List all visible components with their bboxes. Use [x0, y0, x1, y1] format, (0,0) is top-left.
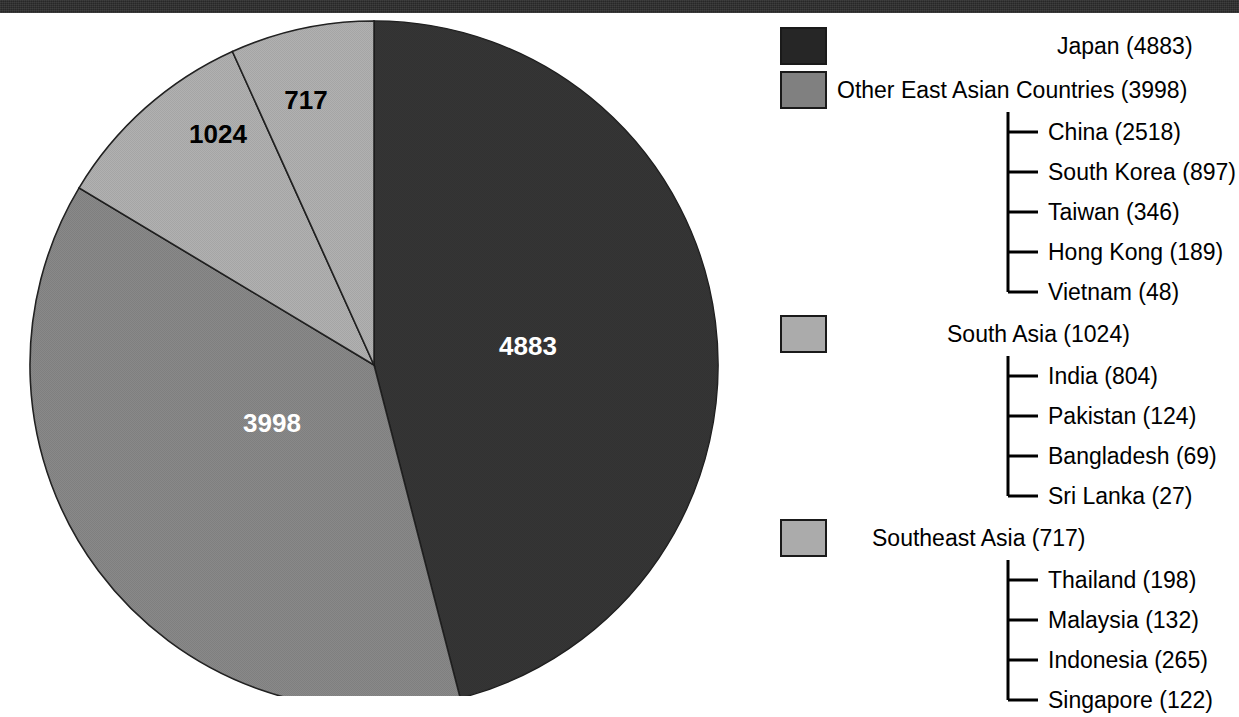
legend-child-item[interactable]: Indonesia (265) [780, 640, 1239, 680]
legend-child-item[interactable]: Bangladesh (69) [780, 436, 1239, 476]
legend-group[interactable]: Japan (4883) [780, 24, 1239, 68]
legend-group-label: Other East Asian Countries (3998) [837, 79, 1187, 102]
legend-group-header[interactable]: Other East Asian Countries (3998) [780, 68, 1239, 112]
legend-group-header[interactable]: South Asia (1024) [780, 312, 1239, 356]
pie-slice-value-label: 3998 [243, 408, 301, 438]
legend-child-item[interactable]: Taiwan (346) [780, 192, 1239, 232]
legend-group-label: Southeast Asia (717) [872, 527, 1086, 550]
legend-group-header[interactable]: Southeast Asia (717) [780, 516, 1239, 560]
legend-child-item[interactable]: Pakistan (124) [780, 396, 1239, 436]
legend-child-item[interactable]: Thailand (198) [780, 560, 1239, 600]
legend-color-swatch [780, 71, 827, 109]
legend-child-item[interactable]: Singapore (122) [780, 680, 1239, 717]
legend-child-label: Taiwan (346) [1048, 201, 1180, 224]
legend-child-label: Bangladesh (69) [1048, 445, 1217, 468]
legend-group-label: Japan (4883) [1057, 35, 1193, 58]
legend-child-item[interactable]: China (2518) [780, 112, 1239, 152]
legend-color-swatch [780, 315, 827, 353]
legend-children: India (804)Pakistan (124)Bangladesh (69)… [780, 356, 1239, 516]
legend-children: China (2518)South Korea (897)Taiwan (346… [780, 112, 1239, 312]
legend-color-swatch-fill [782, 317, 825, 351]
legend-child-label: Singapore (122) [1048, 689, 1213, 712]
legend-child-label: Thailand (198) [1048, 569, 1196, 592]
pie-slice-value-label: 1024 [189, 119, 247, 149]
legend-group-header[interactable]: Japan (4883) [780, 24, 1239, 68]
legend-child-item[interactable]: Sri Lanka (27) [780, 476, 1239, 516]
legend-child-label: Indonesia (265) [1048, 649, 1208, 672]
legend-color-swatch-fill [782, 73, 825, 107]
legend-group-label: South Asia (1024) [947, 323, 1130, 346]
legend-child-item[interactable]: Vietnam (48) [780, 272, 1239, 312]
pie-slice-value-label: 4883 [499, 331, 557, 361]
legend-child-item[interactable]: Malaysia (132) [780, 600, 1239, 640]
legend-children: Thailand (198)Malaysia (132)Indonesia (2… [780, 560, 1239, 717]
legend-child-label: India (804) [1048, 365, 1158, 388]
legend-child-item[interactable]: India (804) [780, 356, 1239, 396]
legend-group[interactable]: South Asia (1024)India (804)Pakistan (12… [780, 312, 1239, 516]
legend-child-item[interactable]: South Korea (897) [780, 152, 1239, 192]
legend-group[interactable]: Other East Asian Countries (3998)China (… [780, 68, 1239, 312]
pie-slice-group [30, 21, 718, 696]
pie-chart: 488339981024717 [0, 0, 760, 696]
legend-color-swatch-fill [782, 29, 825, 63]
legend-color-swatch [780, 519, 827, 557]
legend-child-label: China (2518) [1048, 121, 1181, 144]
legend: Japan (4883)Other East Asian Countries (… [780, 24, 1239, 664]
legend-color-swatch [780, 27, 827, 65]
legend-child-item[interactable]: Hong Kong (189) [780, 232, 1239, 272]
legend-child-label: Malaysia (132) [1048, 609, 1199, 632]
legend-group[interactable]: Southeast Asia (717)Thailand (198)Malays… [780, 516, 1239, 717]
legend-child-label: Sri Lanka (27) [1048, 485, 1192, 508]
legend-child-label: Pakistan (124) [1048, 405, 1196, 428]
pie-slice-value-label: 717 [284, 85, 327, 115]
legend-child-label: South Korea (897) [1048, 161, 1236, 184]
legend-child-label: Hong Kong (189) [1048, 241, 1223, 264]
legend-color-swatch-fill [782, 521, 825, 555]
legend-child-label: Vietnam (48) [1048, 281, 1179, 304]
pie-chart-svg: 488339981024717 [0, 0, 760, 696]
